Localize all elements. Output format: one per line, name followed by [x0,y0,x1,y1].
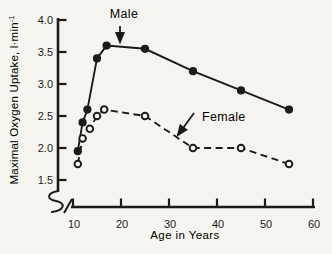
y-tick-label: 3.5 [38,46,53,58]
y-tick-label: 3.0 [38,78,53,90]
y-tick-label: 4.0 [38,14,53,26]
female-data-point [286,161,293,168]
x-axis-break-mark [64,199,72,213]
male-series-line [78,46,289,152]
series-label-male: Male [100,7,148,21]
female-annotation-arrow [178,113,194,135]
male-data-point [285,106,293,114]
female-data-point [190,145,197,152]
female-data-point [142,113,149,120]
male-data-point [83,106,91,114]
plot-area: 1.52.02.53.03.54.0102030405060 [0,0,332,254]
x-tick-label: 60 [308,218,320,230]
male-data-point [237,86,245,94]
y-axis-break-mark [49,191,63,212]
y-tick-label: 2.0 [38,142,53,154]
series-label-female: Female [202,110,260,124]
x-axis-title: Age in Years [125,229,245,241]
vo2-uptake-vs-age-chart: 1.52.02.53.03.54.0102030405060 Maximal O… [0,0,332,254]
male-data-point [189,67,197,75]
female-data-point [79,135,86,142]
y-axis-title-text: Maximal Oxygen Uptake, l·min [8,22,20,184]
y-axis-title: Maximal Oxygen Uptake, l·min-1 [7,14,23,186]
female-data-point [94,113,101,120]
y-axis-title-exponent: -1 [7,16,16,23]
y-tick-label: 2.5 [38,110,53,122]
female-data-point [238,145,245,152]
male-data-point [93,54,101,62]
female-data-point [87,126,94,133]
male-data-point [103,42,111,50]
female-data-point [75,161,82,168]
male-data-point [141,45,149,53]
x-tick-label: 10 [68,218,80,230]
male-data-point [79,118,87,126]
female-data-point [101,106,108,113]
y-tick-label: 1.5 [38,174,53,186]
x-tick-label: 50 [260,218,272,230]
